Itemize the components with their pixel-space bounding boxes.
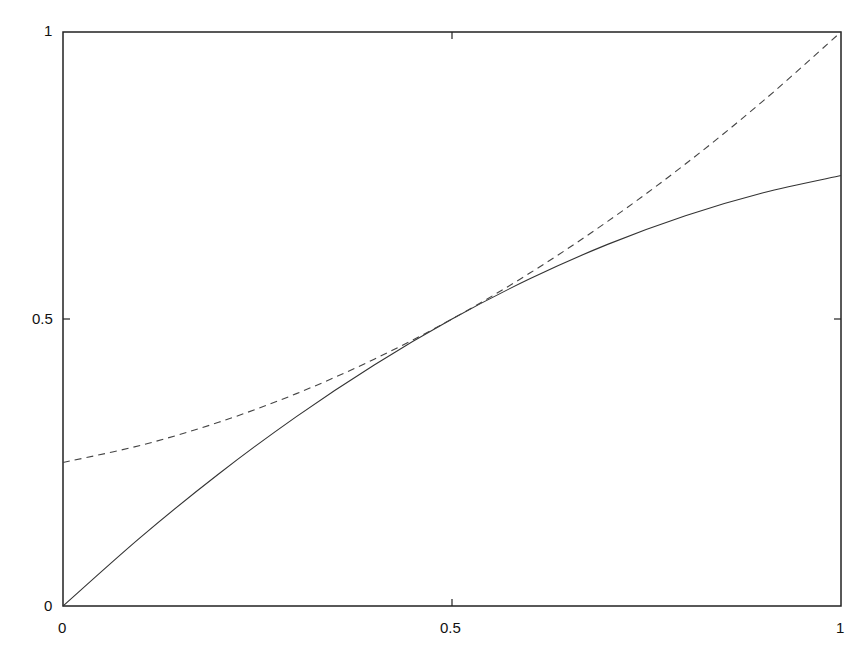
- solid-curve: [63, 176, 841, 607]
- dashed-curve: [63, 32, 841, 463]
- y-tick-label-0.5: 0.5: [32, 310, 53, 327]
- x-tick-label-0: 0: [58, 619, 66, 636]
- x-tick-label-1: 1: [836, 619, 844, 636]
- y-tick-label-1: 1: [44, 22, 52, 39]
- y-tick-label-0: 0: [44, 597, 52, 614]
- x-tick-label-0.5: 0.5: [440, 619, 461, 636]
- line-chart: [0, 0, 864, 654]
